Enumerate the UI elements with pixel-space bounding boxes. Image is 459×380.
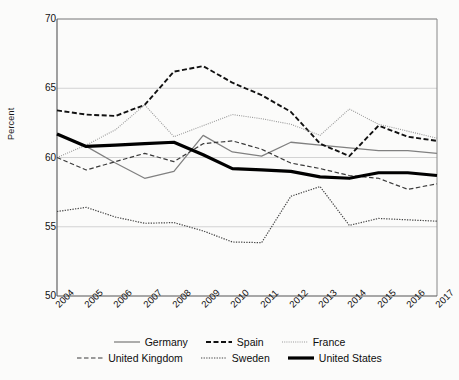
- legend-row-2: United KingdomSwedenUnited States: [0, 350, 459, 366]
- y-axis-ticks: 7065605550: [26, 0, 56, 380]
- legend-swatch-icon: [282, 337, 308, 347]
- legend-label: Germany: [145, 336, 188, 348]
- y-tick-label: 55: [34, 222, 56, 232]
- legend-swatch-icon: [206, 337, 232, 347]
- plot-area: [0, 0, 459, 380]
- legend-swatch-icon: [201, 353, 227, 363]
- legend-item-france[interactable]: France: [282, 336, 346, 348]
- legend-line-icon: [201, 353, 227, 363]
- legend-line-icon: [114, 337, 140, 347]
- legend-row-1: GermanySpainFrance: [0, 334, 459, 350]
- y-axis-title: Percent: [6, 108, 16, 140]
- legend-swatch-icon: [77, 353, 103, 363]
- legend-label: Spain: [237, 336, 264, 348]
- y-tick-label: 70: [34, 14, 56, 24]
- legend: GermanySpainFrance United KingdomSwedenU…: [0, 334, 459, 366]
- y-tick-label: 60: [34, 153, 56, 163]
- y-tick-label: 50: [34, 291, 56, 301]
- series-line-sweden: [57, 187, 437, 243]
- series-line-united-kingdom: [57, 141, 437, 189]
- legend-item-spain[interactable]: Spain: [206, 336, 264, 348]
- y-tick-label: 65: [34, 83, 56, 93]
- series-line-france: [57, 105, 437, 158]
- legend-item-germany[interactable]: Germany: [114, 336, 188, 348]
- legend-line-icon: [288, 353, 314, 363]
- legend-line-icon: [77, 353, 103, 363]
- legend-label: Sweden: [232, 352, 270, 364]
- legend-label: United Kingdom: [108, 352, 183, 364]
- legend-line-icon: [282, 337, 308, 347]
- series-line-united-states: [57, 134, 437, 178]
- legend-swatch-icon: [114, 337, 140, 347]
- legend-item-sweden[interactable]: Sweden: [201, 352, 270, 364]
- legend-item-united-states[interactable]: United States: [288, 352, 382, 364]
- line-chart: Percent 7065605550 200420052006200720082…: [0, 0, 459, 380]
- legend-line-icon: [206, 337, 232, 347]
- legend-label: France: [313, 336, 346, 348]
- series-line-spain: [57, 66, 437, 156]
- legend-label: United States: [319, 352, 382, 364]
- legend-swatch-icon: [288, 353, 314, 363]
- legend-item-united-kingdom[interactable]: United Kingdom: [77, 352, 183, 364]
